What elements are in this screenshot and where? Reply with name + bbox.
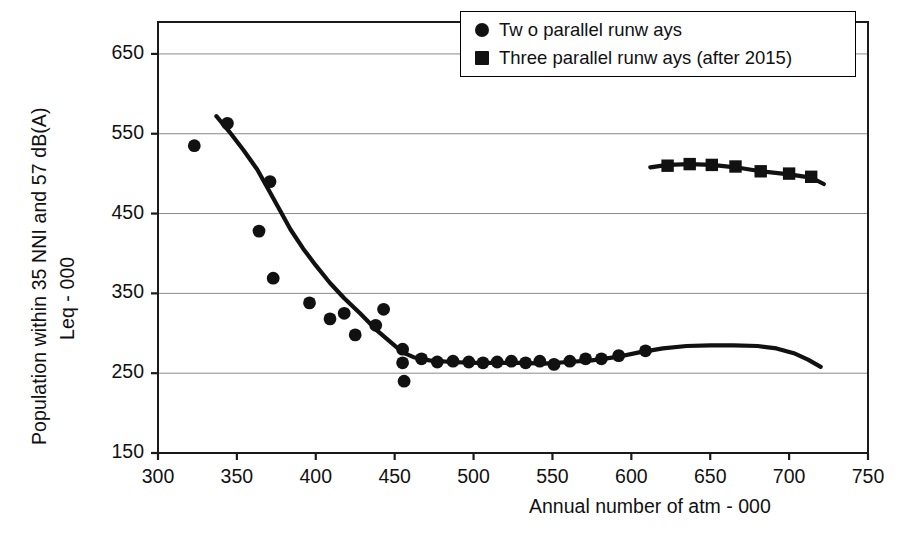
- data-point-circle: [303, 297, 316, 310]
- data-point-circle: [491, 356, 504, 369]
- data-point-circle: [595, 352, 608, 365]
- data-point-circle: [477, 356, 490, 369]
- legend-label: Tw o parallel runw ays: [499, 19, 682, 41]
- data-point-circle: [505, 355, 518, 368]
- plot-area: [0, 0, 911, 549]
- data-point-circle: [338, 307, 351, 320]
- data-point-circle: [221, 117, 234, 130]
- legend-item-two-parallel-runways: Tw o parallel runw ays: [475, 16, 855, 44]
- data-point-square: [729, 160, 741, 172]
- data-point-square: [706, 159, 718, 171]
- data-point-circle: [563, 355, 576, 368]
- data-point-circle: [188, 139, 201, 152]
- data-point-circle: [533, 355, 546, 368]
- legend-circle-marker-icon: [475, 23, 489, 37]
- data-point-circle: [324, 313, 337, 326]
- data-point-square: [661, 160, 673, 172]
- data-point-circle: [349, 329, 362, 342]
- data-point-square: [783, 167, 795, 179]
- data-point-circle: [264, 175, 277, 188]
- legend-item-three-parallel-runways: Three parallel runw ays (after 2015): [475, 44, 855, 72]
- data-point-circle: [579, 352, 592, 365]
- data-point-circle: [398, 375, 411, 388]
- legend-label: Three parallel runw ays (after 2015): [499, 47, 792, 69]
- data-point-circle: [253, 225, 266, 238]
- data-point-circle: [377, 303, 390, 316]
- data-point-square: [805, 171, 817, 183]
- data-point-circle: [396, 356, 409, 369]
- data-point-circle: [431, 356, 444, 369]
- data-point-circle: [519, 356, 532, 369]
- legend-square-marker-icon: [475, 51, 489, 65]
- data-point-circle: [415, 352, 428, 365]
- chart-legend: Tw o parallel runw ays Three parallel ru…: [460, 11, 856, 77]
- data-point-square: [755, 165, 767, 177]
- data-point-square: [684, 158, 696, 170]
- plot-background: [158, 22, 868, 453]
- data-point-circle: [548, 358, 561, 371]
- data-point-circle: [369, 319, 382, 332]
- data-point-circle: [396, 343, 409, 356]
- data-point-circle: [267, 272, 280, 285]
- data-point-circle: [612, 349, 625, 362]
- data-point-circle: [447, 355, 460, 368]
- data-point-circle: [639, 344, 652, 357]
- data-point-circle: [462, 356, 475, 369]
- chart-figure: Population within 35 NNI and 57 dB(A) Le…: [0, 0, 911, 549]
